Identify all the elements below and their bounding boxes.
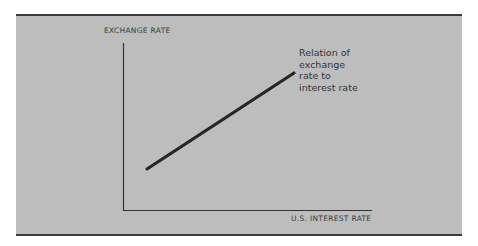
- x-axis-label: U.S. INTEREST RATE: [291, 214, 371, 223]
- annotation-line-2: exchange: [299, 59, 369, 71]
- y-axis-label: EXCHANGE RATE: [104, 26, 171, 35]
- line-annotation: Relation of exchange rate to interest ra…: [299, 47, 369, 93]
- annotation-line-3: rate to: [299, 70, 369, 82]
- chart-plot-area: [0, 0, 478, 246]
- annotation-line-4: interest rate: [299, 82, 369, 94]
- relation-line: [147, 73, 294, 169]
- annotation-line-1: Relation of: [299, 47, 369, 59]
